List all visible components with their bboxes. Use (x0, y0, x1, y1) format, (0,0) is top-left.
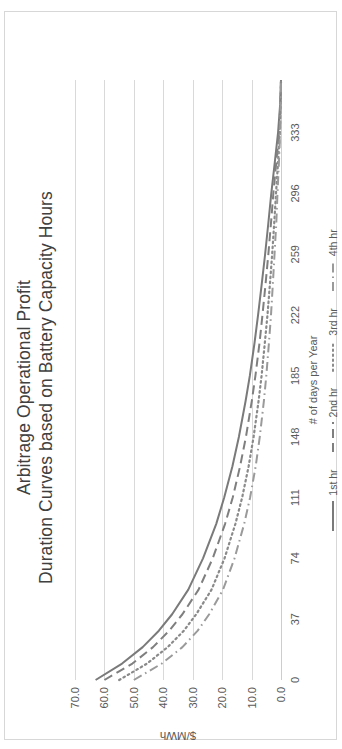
series-line (134, 80, 281, 680)
legend-label: 1st hr (327, 469, 339, 495)
y-tick-label: 50.0 (128, 687, 140, 708)
y-tick-label: 20.0 (216, 687, 228, 708)
legend-label: 4th hr (327, 229, 339, 256)
x-tick-label: 185 (289, 367, 301, 385)
x-tick-label: 111 (289, 489, 301, 506)
x-tick-label: 296 (289, 184, 301, 202)
page-subtitle: Duration Curves based on Battery Capacit… (35, 23, 57, 749)
y-tick-label: 40.0 (157, 687, 169, 708)
y-tick-label: 60.0 (98, 687, 110, 708)
series-line (104, 80, 281, 680)
legend-line-swatch (328, 261, 338, 291)
y-tick-label: 10.0 (246, 687, 258, 708)
x-tick-label: 333 (289, 123, 301, 141)
y-axis-label: $/MWh (160, 730, 196, 742)
series-line (96, 80, 281, 680)
legend-line-swatch (328, 422, 338, 452)
chart-frame: Arbitrage Operational Profit Duration Cu… (4, 11, 337, 740)
series-line (119, 80, 281, 680)
plot-area: 0.010.020.030.040.050.060.070.0 03774111… (75, 80, 281, 680)
gridline (281, 80, 282, 680)
x-tick-label: 259 (289, 245, 301, 263)
chart-legend: 1st hr2nd hr3rd hr4th hr (327, 80, 339, 680)
chart-title-block: Arbitrage Operational Profit Duration Cu… (13, 23, 58, 749)
x-tick-label: 74 (289, 552, 301, 564)
legend-line-swatch (328, 501, 338, 531)
legend-label: 2nd hr (327, 388, 339, 418)
x-tick-label: 148 (289, 428, 301, 446)
x-axis-label: # of days per Year (307, 80, 319, 680)
x-tick-label: 0 (289, 677, 301, 683)
legend-item[interactable]: 1st hr (327, 469, 339, 530)
x-tick-label: 37 (289, 613, 301, 625)
y-tick-label: 0.0 (275, 687, 287, 702)
y-tick-label: 30.0 (187, 687, 199, 708)
chart-rotated-canvas: Arbitrage Operational Profit Duration Cu… (9, 23, 342, 749)
legend-item[interactable]: 2nd hr (327, 388, 339, 453)
legend-item[interactable]: 3rd hr (327, 308, 339, 370)
legend-item[interactable]: 4th hr (327, 229, 339, 291)
page-title: Arbitrage Operational Profit (13, 23, 35, 749)
x-tick-label: 222 (289, 306, 301, 324)
legend-label: 3rd hr (327, 308, 339, 335)
legend-line-swatch (328, 341, 338, 371)
series-lines (75, 80, 281, 680)
y-tick-label: 70.0 (69, 687, 81, 708)
